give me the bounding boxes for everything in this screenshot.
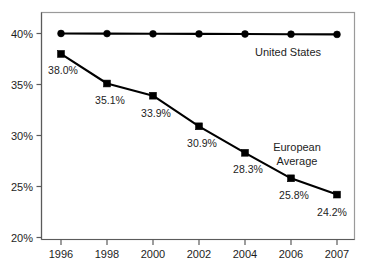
y-axis-tick-label: 25% bbox=[11, 181, 33, 193]
data-point-marker bbox=[58, 30, 65, 37]
data-point-marker bbox=[334, 31, 341, 38]
data-point-label: 30.9% bbox=[187, 137, 217, 149]
data-point-marker bbox=[150, 92, 157, 99]
data-point-marker bbox=[150, 30, 157, 37]
data-point-marker bbox=[242, 149, 249, 156]
data-point-label: 35.1% bbox=[95, 94, 125, 106]
data-point-marker bbox=[58, 51, 65, 58]
data-point-marker bbox=[288, 175, 295, 182]
data-point-label: 25.8% bbox=[279, 189, 309, 201]
series-label-united-states: United States bbox=[255, 46, 322, 58]
x-axis-tick-label: 2006 bbox=[279, 248, 303, 260]
data-point-marker bbox=[104, 80, 111, 87]
data-point-marker bbox=[242, 31, 249, 38]
x-axis-tick-label: 2002 bbox=[187, 248, 211, 260]
data-point-label: 28.3% bbox=[233, 163, 263, 175]
y-axis-tick-label: 20% bbox=[11, 232, 33, 244]
x-axis-tick-label: 2007 bbox=[325, 248, 349, 260]
y-axis-tick-label: 30% bbox=[11, 130, 33, 142]
data-point-marker bbox=[196, 31, 203, 38]
x-axis-tick-label: 2004 bbox=[233, 248, 257, 260]
data-point-label: 38.0% bbox=[48, 64, 78, 76]
x-axis-tick-label: 1996 bbox=[49, 248, 73, 260]
x-axis-tick-label: 1998 bbox=[95, 248, 119, 260]
line-chart: 40% 35% 30% 25% 20% 1996 1998 2000 2002 … bbox=[0, 0, 367, 270]
data-point-marker bbox=[334, 191, 341, 198]
data-point-label: 24.2% bbox=[317, 206, 347, 218]
data-point-marker bbox=[196, 123, 203, 130]
y-axis-tick-label: 35% bbox=[11, 79, 33, 91]
series-label-european-average-line1: European bbox=[273, 141, 321, 153]
data-point-marker bbox=[288, 31, 295, 38]
x-axis-tick-label: 2000 bbox=[141, 248, 165, 260]
chart-canvas: 40% 35% 30% 25% 20% 1996 1998 2000 2002 … bbox=[0, 0, 367, 270]
series-label-european-average-line2: Average bbox=[277, 155, 318, 167]
data-point-marker bbox=[104, 30, 111, 37]
data-point-label: 33.9% bbox=[141, 107, 171, 119]
y-axis-tick-label: 40% bbox=[11, 28, 33, 40]
